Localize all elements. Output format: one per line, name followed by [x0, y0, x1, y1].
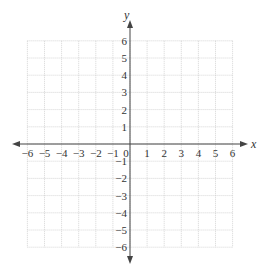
x-tick-label: 6 — [230, 147, 236, 159]
y-tick-label: −3 — [115, 190, 127, 202]
y-tick-label: 5 — [122, 52, 128, 64]
y-tick-label: 4 — [122, 69, 128, 81]
x-tick-label: 5 — [213, 147, 219, 159]
x-axis-label: x — [250, 137, 257, 151]
y-tick-label: 1 — [122, 121, 128, 133]
x-axis-left-arrow-icon — [12, 141, 20, 147]
x-tick-label: −5 — [39, 147, 51, 159]
x-tick-label: −6 — [22, 147, 34, 159]
y-tick-label: −6 — [115, 241, 127, 253]
y-tick-label: −4 — [115, 207, 127, 219]
x-tick-label: −2 — [90, 147, 102, 159]
x-tick-label: −3 — [73, 147, 85, 159]
x-tick-label: 2 — [161, 147, 167, 159]
x-tick-label: 4 — [196, 147, 202, 159]
y-axis-down-arrow-icon — [127, 256, 133, 264]
y-tick-label: −5 — [115, 224, 127, 236]
x-tick-label: 1 — [144, 147, 150, 159]
y-tick-label: 3 — [122, 86, 128, 98]
y-axis-label: y — [123, 8, 130, 22]
y-tick-label: −1 — [115, 155, 127, 167]
x-tick-label: −4 — [56, 147, 68, 159]
y-tick-label: −2 — [115, 172, 127, 184]
coordinate-plane: −6−5−4−3−2−10123456654321−1−2−3−4−5−6 x … — [0, 0, 266, 275]
axes — [12, 20, 248, 264]
x-axis-right-arrow-icon — [240, 141, 248, 147]
x-tick-label: 3 — [179, 147, 185, 159]
y-tick-label: 6 — [122, 35, 128, 47]
y-tick-label: 2 — [122, 104, 128, 116]
